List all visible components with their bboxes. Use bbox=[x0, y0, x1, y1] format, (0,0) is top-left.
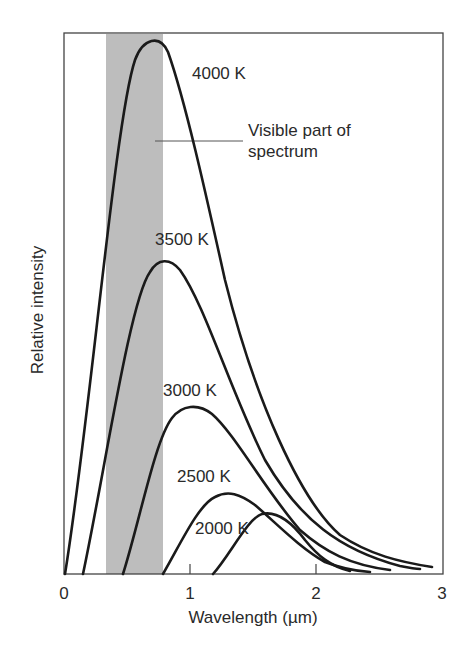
visible-spectrum-annotation: Visible part of spectrum bbox=[248, 120, 351, 162]
curve-3000k bbox=[123, 407, 390, 574]
annotation-line-1: Visible part of bbox=[248, 120, 351, 141]
visible-spectrum-band bbox=[106, 34, 163, 574]
x-tick-2: 2 bbox=[311, 584, 320, 604]
label-3000k: 3000 K bbox=[163, 381, 217, 401]
blackbody-chart bbox=[0, 0, 474, 662]
label-2000k: 2000 K bbox=[195, 519, 249, 539]
label-2500k: 2500 K bbox=[177, 467, 231, 487]
x-tick-0: 0 bbox=[59, 584, 68, 604]
label-3500k: 3500 K bbox=[155, 230, 209, 250]
annotation-line-2: spectrum bbox=[248, 141, 351, 162]
x-axis-label: Wavelength (µm) bbox=[188, 608, 317, 628]
y-axis-label: Relative intensity bbox=[28, 246, 48, 375]
x-tick-3: 3 bbox=[437, 584, 446, 604]
label-4000k: 4000 K bbox=[192, 64, 246, 84]
x-ticks bbox=[190, 564, 316, 574]
x-tick-1: 1 bbox=[185, 584, 194, 604]
